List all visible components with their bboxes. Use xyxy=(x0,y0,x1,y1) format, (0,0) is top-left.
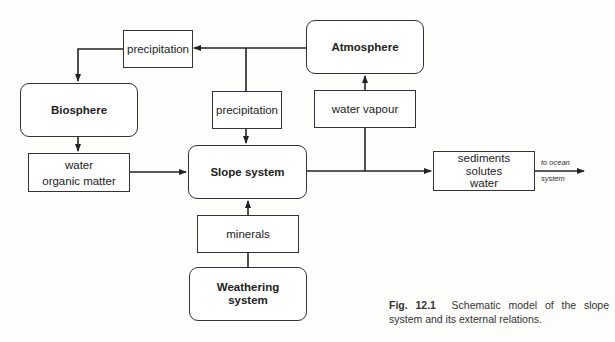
weathering-line2: system xyxy=(228,294,268,307)
figure-caption: Fig. 12.1 Schematic model of the slope s… xyxy=(389,298,609,326)
precipitation-mid-label: precipitation xyxy=(216,103,278,117)
water-vapour-label: water vapour xyxy=(332,102,398,116)
out-line3: water xyxy=(470,177,498,190)
precipitation-mid-box: precipitation xyxy=(212,91,282,129)
ocean-system-label: system xyxy=(541,174,565,183)
slope-system-node: Slope system xyxy=(188,145,307,199)
figure-number: Fig. 12.1 xyxy=(389,299,436,311)
biosphere-node: Biosphere xyxy=(20,83,138,137)
weathering-line1: Weathering xyxy=(217,281,279,294)
atmosphere-label: Atmosphere xyxy=(331,40,398,54)
water-organic-matter-box: water organic matter xyxy=(28,153,130,192)
to-ocean-label: to ocean xyxy=(541,158,570,167)
minerals-label: minerals xyxy=(226,227,269,241)
out-line2: solutes xyxy=(466,165,502,178)
biosphere-label: Biosphere xyxy=(51,103,107,117)
out-line1: sediments xyxy=(458,152,510,165)
precipitation-top-box: precipitation xyxy=(123,30,193,68)
bio-out-line2: organic matter xyxy=(42,173,116,189)
slope-system-diagram: Atmosphere precipitation Biosphere preci… xyxy=(0,0,615,342)
atmosphere-node: Atmosphere xyxy=(306,20,424,74)
precipitation-top-label: precipitation xyxy=(127,42,189,56)
weathering-system-node: Weathering system xyxy=(189,267,307,321)
water-vapour-box: water vapour xyxy=(314,90,416,128)
bio-out-line1: water xyxy=(65,157,93,173)
sediments-solutes-water-box: sediments solutes water xyxy=(433,151,535,191)
minerals-box: minerals xyxy=(197,215,299,253)
slope-system-label: Slope system xyxy=(210,165,284,179)
